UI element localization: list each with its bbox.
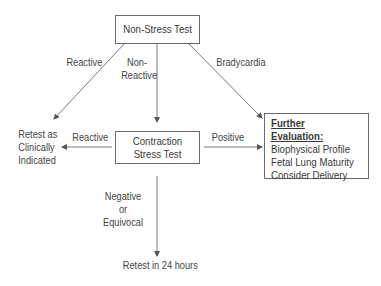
node-label-line: Retest as bbox=[18, 128, 51, 141]
list-item: Consider Delivery bbox=[271, 169, 356, 182]
edge-label-line: Reactive bbox=[121, 69, 153, 82]
edge-label-line: Negative bbox=[103, 190, 143, 203]
edge-label-negative-equivocal: Negative or Equivocal bbox=[103, 190, 143, 229]
edge-label-line: Non- bbox=[121, 56, 153, 69]
edge-label-non-reactive: Non- Reactive bbox=[121, 56, 153, 82]
node-label-line: Indicated bbox=[18, 154, 51, 167]
list-item: Biophysical Profile bbox=[271, 143, 356, 156]
node-further-evaluation: Further Evaluation: Biophysical Profile … bbox=[264, 113, 369, 179]
arrow-nst-to-further-eval bbox=[188, 43, 262, 118]
edge-label-positive: Positive bbox=[211, 131, 244, 144]
node-label-line: Contraction bbox=[121, 135, 194, 148]
node-label: Non-Stress Test bbox=[121, 23, 194, 36]
node-label-line: Clinically bbox=[18, 141, 51, 154]
edge-label-line: Equivocal bbox=[103, 216, 143, 229]
node-retest-24-hours: Retest in 24 hours bbox=[123, 259, 193, 272]
edge-label-reactive: Reactive bbox=[66, 56, 101, 69]
node-label-line: Stress Test bbox=[121, 148, 194, 161]
list-item: Fetal Lung Maturity bbox=[271, 156, 356, 169]
node-heading: Further Evaluation: bbox=[271, 117, 356, 143]
node-non-stress-test: Non-Stress Test bbox=[115, 15, 200, 44]
arrow-nst-to-retest-clinically bbox=[54, 43, 125, 119]
flowchart: Non-Stress Test Contraction Stress Test … bbox=[0, 0, 381, 286]
edge-label-cst-reactive: Reactive bbox=[72, 131, 105, 144]
node-contraction-stress-test: Contraction Stress Test bbox=[115, 131, 200, 164]
edge-label-line: or bbox=[103, 203, 143, 216]
node-retest-clinically: Retest as Clinically Indicated bbox=[18, 128, 51, 167]
edge-label-bradycardia: Bradycardia bbox=[216, 56, 264, 69]
